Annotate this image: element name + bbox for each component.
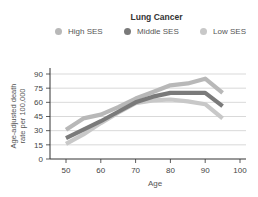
y-tick-label: 45 (34, 112, 43, 121)
y-tick-label: 90 (34, 70, 43, 79)
x-tick-label: 90 (201, 166, 210, 175)
x-tick-label: 50 (62, 166, 71, 175)
y-tick-label: 15 (34, 141, 43, 150)
y-tick-label: 60 (34, 98, 43, 107)
x-tick-label: 60 (96, 166, 105, 175)
x-tick-label: 80 (166, 166, 175, 175)
x-tick-label: 100 (233, 166, 247, 175)
x-tick-label: 70 (131, 166, 140, 175)
x-axis-label: Age (55, 179, 255, 188)
y-tick-label: 0 (39, 155, 44, 164)
y-tick-label: 30 (34, 126, 43, 135)
y-tick-label: 75 (34, 84, 43, 93)
plot-area: 01530456075905060708090100 (0, 0, 258, 197)
series-line-low-ses (66, 100, 223, 144)
